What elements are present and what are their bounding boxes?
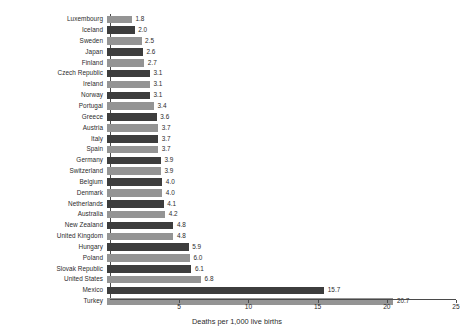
x-axis-tick-label: 15 (314, 304, 321, 311)
x-axis-tick-label: 10 (245, 304, 252, 311)
bar-track: 6.8 (107, 274, 474, 285)
bar-value-label: 2.6 (146, 49, 155, 55)
category-label: Finland (0, 60, 107, 66)
bar-value-label: 6.0 (194, 255, 203, 261)
bar-track: 3.4 (107, 101, 474, 112)
bar-row: Norway3.1 (0, 90, 474, 101)
bar (107, 37, 142, 45)
x-axis-tick-label: 20 (383, 304, 390, 311)
bar-track: 3.6 (107, 112, 474, 123)
bar-row: Netherlands4.1 (0, 198, 474, 209)
category-label: Hungary (0, 244, 107, 250)
bar-track: 4.0 (107, 188, 474, 199)
bar-row: United Kingdom4.8 (0, 231, 474, 242)
category-label: Czech Republic (0, 70, 107, 76)
x-axis-tick-label: 25 (452, 304, 459, 311)
bar-row: Denmark4.0 (0, 188, 474, 199)
bar-row: Hungary5.9 (0, 242, 474, 253)
bar-row: Iceland2.0 (0, 25, 474, 36)
category-label: Portugal (0, 103, 107, 109)
bar-row: Italy3.7 (0, 133, 474, 144)
bar-track: 2.0 (107, 25, 474, 36)
bar (107, 276, 201, 284)
bar (107, 26, 135, 34)
bar (107, 102, 154, 110)
bar-value-label: 1.8 (135, 16, 144, 22)
bar-row: Sweden2.5 (0, 36, 474, 47)
bar (107, 70, 150, 78)
bar-track: 4.2 (107, 209, 474, 220)
bar-row: Poland6.0 (0, 253, 474, 264)
bar-value-label: 2.5 (145, 38, 154, 44)
bar-value-label: 2.7 (148, 60, 157, 66)
category-label: Austria (0, 125, 107, 131)
bar-value-label: 4.2 (169, 211, 178, 217)
bar-value-label: 3.9 (164, 157, 173, 163)
bar-row: New Zealand4.8 (0, 220, 474, 231)
category-label: Greece (0, 114, 107, 120)
bar-row: Japan2.6 (0, 47, 474, 58)
bar-track: 3.9 (107, 166, 474, 177)
category-label: Germany (0, 157, 107, 163)
bar-row: Portugal3.4 (0, 101, 474, 112)
bar-row: Slovak Republic6.1 (0, 263, 474, 274)
bar-track: 4.0 (107, 177, 474, 188)
bar (107, 200, 164, 208)
bar-row: Germany3.9 (0, 155, 474, 166)
bar-row: Turkey20.7 (0, 296, 474, 307)
category-label: Italy (0, 136, 107, 142)
bar (107, 178, 162, 186)
bar (107, 81, 150, 89)
bar (107, 124, 158, 132)
bar-track: 3.7 (107, 122, 474, 133)
bar (107, 59, 144, 67)
bar-value-label: 2.0 (138, 27, 147, 33)
bar-value-label: 4.8 (177, 233, 186, 239)
category-label: Luxembourg (0, 16, 107, 22)
category-label: Denmark (0, 190, 107, 196)
bar-track: 4.8 (107, 220, 474, 231)
x-axis-tick-label: 5 (177, 304, 181, 311)
bar-track: 4.8 (107, 231, 474, 242)
bar-row: Greece3.6 (0, 112, 474, 123)
bar (107, 211, 165, 219)
bar-value-label: 3.7 (162, 136, 171, 142)
bar-value-label: 15.7 (328, 287, 340, 293)
category-label: Japan (0, 49, 107, 55)
bar-value-label: 3.1 (153, 92, 162, 98)
category-label: Mexico (0, 287, 107, 293)
bar (107, 146, 158, 154)
x-axis-title: Deaths per 1,000 live births (0, 318, 474, 325)
bar-value-label: 4.0 (166, 190, 175, 196)
bar-row: Australia4.2 (0, 209, 474, 220)
bar-track: 1.8 (107, 14, 474, 25)
category-label: Poland (0, 255, 107, 261)
bar-row: Czech Republic3.1 (0, 68, 474, 79)
bar-track: 5.9 (107, 242, 474, 253)
bar-track: 3.7 (107, 133, 474, 144)
bar (107, 254, 190, 262)
bar-value-label: 3.7 (162, 125, 171, 131)
bar-track: 2.7 (107, 57, 474, 68)
bar-value-label: 5.9 (192, 244, 201, 250)
bar-track: 3.1 (107, 79, 474, 90)
category-label: Australia (0, 211, 107, 217)
bar (107, 113, 157, 121)
bar-value-label: 6.8 (205, 276, 214, 282)
bar-value-label: 3.7 (162, 146, 171, 152)
bar-row: Ireland3.1 (0, 79, 474, 90)
bar-track: 2.5 (107, 36, 474, 47)
bar-value-label: 4.8 (177, 222, 186, 228)
bar (107, 287, 324, 295)
bar-row: Finland2.7 (0, 57, 474, 68)
category-label: United Kingdom (0, 233, 107, 239)
bar-value-label: 4.0 (166, 179, 175, 185)
bar-value-label: 6.1 (195, 266, 204, 272)
bar-row: Luxembourg1.8 (0, 14, 474, 25)
category-label: Norway (0, 92, 107, 98)
bar-row: Belgium4.0 (0, 177, 474, 188)
bar-row: Austria3.7 (0, 122, 474, 133)
bar (107, 157, 161, 165)
bar-row: Switzerland3.9 (0, 166, 474, 177)
bar (107, 265, 191, 273)
